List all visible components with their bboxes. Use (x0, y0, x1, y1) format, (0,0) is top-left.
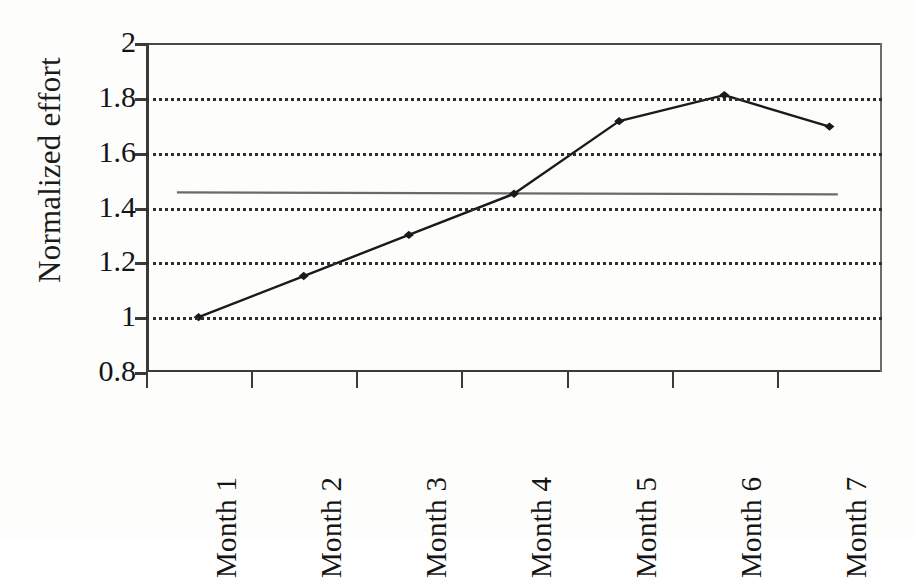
y-axis-tick-label: 1.2 (74, 246, 136, 276)
x-axis-tick-labels: Month 1Month 2Month 3Month 4Month 5Month… (146, 0, 882, 538)
y-axis-tick-label: 1.6 (74, 137, 136, 167)
y-axis-tick-labels: 21.81.61.41.210.8 (74, 0, 136, 538)
x-axis-tick-label: Month 2 (315, 388, 348, 578)
x-axis-tick-label: Month 3 (420, 388, 453, 578)
y-axis-tick-mark (135, 317, 146, 320)
y-axis-tick-mark (135, 372, 146, 375)
x-axis-tick-label: Month 1 (210, 388, 243, 578)
y-axis-tick-mark (135, 98, 146, 101)
y-axis-tick-mark (135, 43, 146, 46)
x-axis-tick-label: Month 4 (525, 388, 558, 578)
y-axis-tick-label: 2 (74, 27, 136, 57)
x-axis-tick-label: Month 7 (840, 388, 873, 578)
y-axis-tick-mark (135, 208, 146, 211)
y-axis-tick-label: 0.8 (74, 356, 136, 386)
y-axis-tick-mark (135, 262, 146, 265)
y-axis-tick-label: 1 (74, 301, 136, 331)
y-axis-title: Normalized effort (32, 15, 68, 325)
y-axis-tick-mark (135, 153, 146, 156)
y-axis-tick-label: 1.8 (74, 82, 136, 112)
x-axis-tick-label: Month 5 (630, 388, 663, 578)
x-axis-tick-label: Month 6 (735, 388, 768, 578)
y-axis-tick-label: 1.4 (74, 192, 136, 222)
